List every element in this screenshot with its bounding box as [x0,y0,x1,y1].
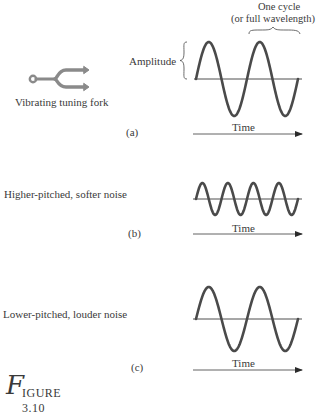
panel-b-description: Higher-pitched, softer noise [4,188,127,200]
amplitude-label: Amplitude [129,55,176,67]
tuning-fork-icon [30,67,89,91]
cycle-brace [249,27,300,34]
time-label-c: Time [232,357,255,369]
panel-tag-c: (c) [131,361,143,373]
figure-caption-text: IGURE 3.10 [22,386,61,416]
panel-tag-b: (b) [128,227,141,239]
panel-tag-a: (a) [126,126,138,138]
time-label-a: Time [232,121,255,133]
cycle-label-line2: (or full wavelength) [231,13,315,24]
panel-c-description: Lower-pitched, louder noise [3,308,127,320]
tuning-fork-label: Vibrating tuning fork [15,96,108,108]
amplitude-brace [180,42,187,79]
cycle-label-line1: One cycle [258,1,300,12]
time-label-b: Time [232,222,255,234]
